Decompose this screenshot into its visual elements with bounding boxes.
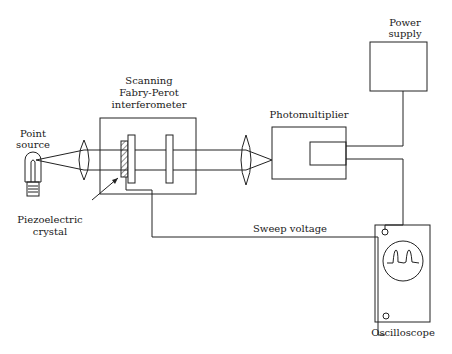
piezo-crystal [121,141,128,177]
piezo-label-1: Piezoelectric [17,214,83,225]
oscilloscope-screen [383,241,423,281]
photomultiplier-inner [310,142,346,165]
focusing-lens [241,135,251,185]
photomultiplier-box [272,127,346,179]
point-source-label-1: Point [20,128,46,139]
oscilloscope-label: Oscilloscope [371,327,435,338]
mirror-1 [128,135,135,183]
power-supply-box [370,42,427,91]
point-source-label-2: source [16,139,50,150]
light-bulb-icon [25,152,41,196]
collimating-lens [79,140,89,180]
waveform-icon [387,250,419,263]
diagram-canvas: Point source Scanning Fabry-Perot interf… [0,0,452,354]
sweep-voltage-label: Sweep voltage [253,223,327,234]
interferometer-label-1: Scanning [125,75,173,86]
interferometer-label-3: interferometer [112,99,187,110]
interferometer-label-2: Fabry-Perot [119,87,178,98]
piezo-label-2: crystal [33,226,67,237]
photomultiplier-label: Photomultiplier [269,109,348,120]
oscilloscope-box [375,225,430,322]
oscilloscope-input-bottom [383,313,389,319]
power-supply-label-1: Power [389,17,421,28]
power-supply-label-2: supply [388,28,422,39]
mirror-2 [166,135,173,183]
